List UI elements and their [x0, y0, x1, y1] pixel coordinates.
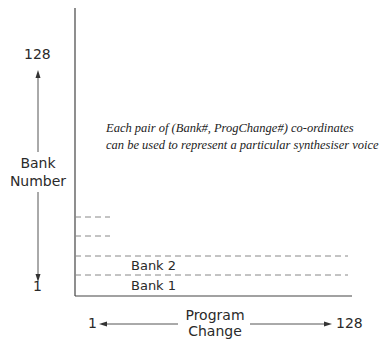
y-axis-title-line1: Bank — [8, 154, 68, 172]
y-axis-max-label: 128 — [24, 46, 51, 62]
diagram-caption: Each pair of (Bank#, ProgChange#) co-ord… — [106, 120, 379, 154]
y-axis-min-label: 1 — [33, 278, 42, 294]
bank-1-label: Bank 1 — [131, 278, 176, 293]
caption-line-1: Each pair of (Bank#, ProgChange#) co-ord… — [106, 120, 379, 137]
bank-2-label: Bank 2 — [131, 258, 176, 273]
y-axis-title: Bank Number — [8, 154, 68, 190]
x-axis-title-line2: Change — [180, 323, 250, 339]
caption-line-2: can be used to represent a particular sy… — [106, 137, 379, 154]
x-axis-min-label: 1 — [88, 315, 97, 331]
x-axis-title-line1: Program — [180, 307, 250, 323]
y-axis-title-line2: Number — [8, 172, 68, 190]
left-arrow-head — [99, 322, 107, 327]
up-arrow-head — [36, 70, 41, 78]
x-axis-title: Program Change — [180, 307, 250, 339]
x-axis-max-label: 128 — [336, 315, 363, 331]
right-arrow-head — [324, 322, 332, 327]
